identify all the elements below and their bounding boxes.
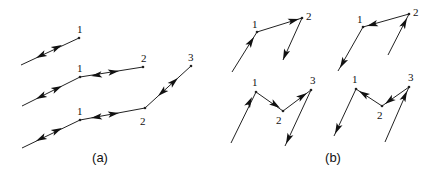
trajectory-line	[22, 67, 143, 106]
node-label: 2	[140, 115, 146, 127]
node-label: 1	[77, 105, 83, 117]
caption-b: (b)	[325, 150, 341, 165]
arrowhead-icon	[51, 86, 62, 94]
node-label: 2	[141, 52, 147, 64]
node-label: 2	[377, 109, 383, 121]
node-label: 3	[310, 74, 316, 86]
node-point	[408, 13, 411, 16]
node-label: 3	[408, 71, 414, 83]
arrowhead-icon	[244, 97, 252, 108]
node-label: 1	[352, 73, 358, 85]
arrowhead-icon	[399, 18, 407, 29]
node-point	[79, 76, 82, 79]
node-label: 1	[77, 62, 83, 74]
arrowhead-icon	[335, 123, 343, 134]
panel-b-diagram-3: 123	[231, 74, 316, 146]
node-label: 1	[357, 13, 363, 25]
arrowhead-icon	[385, 95, 396, 104]
panel-b-diagram-1: 12	[232, 10, 312, 72]
node-point	[310, 89, 313, 92]
arrowhead-icon	[269, 99, 280, 108]
trajectory-line	[334, 87, 409, 142]
figure-canvas: 112123 1212123123 (a) (b)	[0, 0, 438, 175]
node-point	[408, 86, 411, 89]
panel-a-row-1: 1	[21, 23, 83, 65]
trajectory-line	[21, 38, 79, 65]
trajectory-line	[232, 18, 302, 72]
arrowhead-icon	[51, 128, 62, 136]
node-label: 3	[188, 51, 194, 63]
node-point	[362, 26, 365, 29]
panel-b-diagram-4: 123	[334, 71, 414, 142]
node-label: 1	[252, 18, 258, 30]
arrowhead-icon	[51, 45, 62, 53]
node-point	[79, 119, 82, 122]
arrowhead-icon	[359, 91, 370, 100]
panel-a-row-3: 123	[22, 51, 194, 148]
node-point	[142, 66, 145, 69]
node-point	[301, 17, 304, 20]
arrowhead-icon	[286, 133, 293, 144]
node-label: 2	[306, 10, 312, 22]
node-point	[381, 105, 384, 108]
node-point	[190, 65, 193, 68]
node-point	[355, 88, 358, 91]
panel-a-row-2: 12	[22, 52, 147, 106]
arrowhead-icon	[36, 91, 47, 99]
panel-b: 1212123123	[231, 6, 419, 146]
node-point	[255, 91, 258, 94]
node-label: 2	[276, 114, 282, 126]
node-point	[256, 31, 259, 34]
arrowhead-icon	[245, 37, 254, 48]
arrowhead-icon	[283, 49, 290, 60]
arrowhead-icon	[91, 71, 102, 77]
node-point	[78, 37, 81, 40]
panel-a: 112123	[21, 23, 194, 148]
trajectory-line	[231, 90, 311, 146]
caption-a: (a)	[92, 150, 108, 165]
captions: (a) (b)	[92, 150, 341, 165]
node-point	[282, 110, 285, 113]
panel-b-diagram-2: 12	[338, 6, 419, 71]
node-point	[144, 107, 147, 110]
node-label: 1	[77, 23, 83, 35]
trajectory-line	[22, 66, 191, 148]
node-label: 1	[252, 76, 258, 88]
node-label: 2	[413, 6, 419, 18]
arrowhead-icon	[340, 57, 348, 68]
